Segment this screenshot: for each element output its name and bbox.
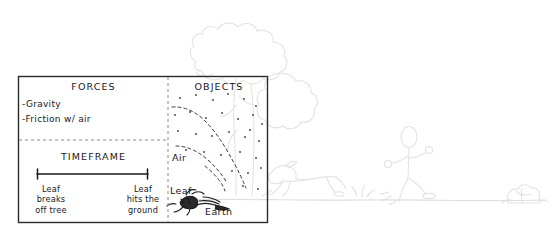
timeline-start-label: Leaf breaks off tree bbox=[20, 184, 82, 215]
set-label-air: Air bbox=[172, 153, 186, 164]
dog-icon bbox=[262, 161, 346, 196]
forces-item-gravity: -Gravity bbox=[22, 99, 61, 109]
timeline-end-label: Leaf hits the ground bbox=[117, 184, 169, 215]
panel-header-objects: OBJECTS bbox=[172, 82, 266, 93]
background-scene bbox=[186, 23, 548, 204]
timeline-bar bbox=[37, 169, 148, 179]
air-particles bbox=[174, 93, 263, 190]
set-label-earth: Earth bbox=[205, 207, 232, 218]
panel-header-forces: FORCES bbox=[19, 82, 168, 93]
forces-item-friction: -Friction w/ air bbox=[22, 114, 91, 124]
stick-figure-icon bbox=[380, 127, 435, 205]
ground-line bbox=[186, 185, 545, 201]
panel-header-timeframe: TIMEFRAME bbox=[19, 152, 168, 163]
set-label-leaf: Leaf bbox=[170, 186, 192, 197]
